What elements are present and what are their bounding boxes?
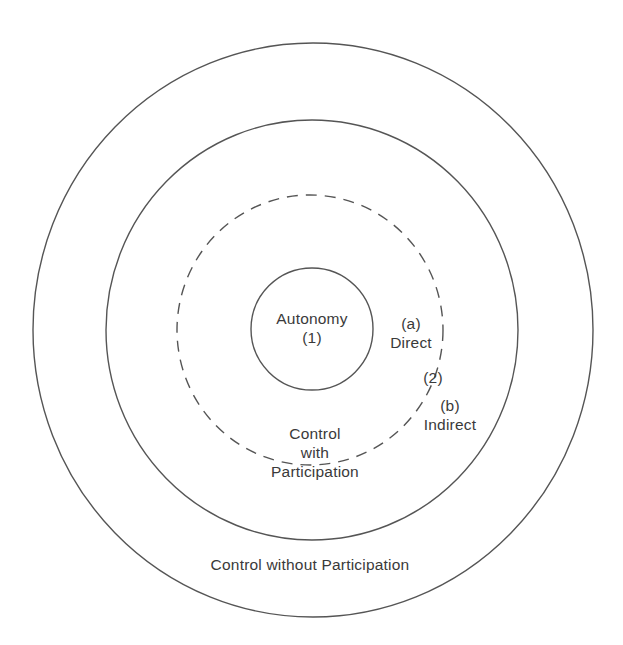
direct-label: (a) Direct — [381, 314, 441, 352]
control-with-participation-label: Control with Participation — [250, 424, 380, 481]
a-marker: (a) — [381, 314, 441, 333]
autonomy-number: (1) — [262, 328, 362, 347]
two-marker: (2) — [418, 368, 448, 387]
b-marker: (b) — [410, 396, 490, 415]
participation-text: Participation — [250, 462, 380, 481]
control-text: Control — [250, 424, 380, 443]
with-text: with — [250, 443, 380, 462]
indirect-text: Indirect — [410, 415, 490, 434]
autonomy-label: Autonomy (1) — [262, 309, 362, 347]
direct-text: Direct — [381, 333, 441, 352]
autonomy-text: Autonomy — [262, 309, 362, 328]
indirect-label: (b) Indirect — [410, 396, 490, 434]
control-without-participation-label: Control without Participation — [160, 555, 460, 574]
